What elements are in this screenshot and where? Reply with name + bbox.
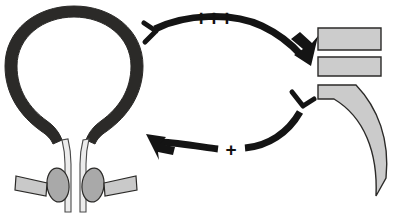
muscle-bar-top	[318, 28, 381, 50]
label-excitation-strong: +++	[195, 6, 234, 31]
bladder-reflex-diagram: +++ +	[0, 0, 394, 216]
muscle-bar-middle	[318, 57, 381, 76]
label-excitation-weak: +	[225, 139, 236, 160]
diagram-canvas: +++ +	[0, 0, 394, 216]
